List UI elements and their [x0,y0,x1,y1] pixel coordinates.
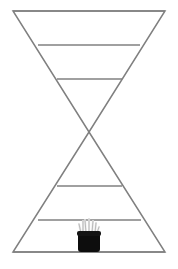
hourglass-figure [0,0,178,269]
pot-rim [77,231,101,236]
figure-canvas: Hourglass line figure with pot [0,0,178,269]
